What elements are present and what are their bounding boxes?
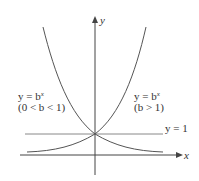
y-axis-label: y bbox=[100, 14, 105, 26]
exponent: x bbox=[41, 90, 44, 98]
exponential-graph: y x y = 1 y = bx (0 < b < 1) y = bx (b >… bbox=[0, 0, 199, 181]
x-axis-label: x bbox=[184, 149, 189, 161]
increasing-curve-condition: (b > 1) bbox=[134, 101, 164, 113]
decreasing-curve-condition: (0 < b < 1) bbox=[18, 101, 65, 113]
decreasing-curve-equation: y = bx bbox=[18, 88, 44, 102]
increasing-curve-equation: y = bx bbox=[134, 88, 160, 102]
y-axis-arrow-icon bbox=[92, 16, 98, 23]
exponent: x bbox=[157, 90, 160, 98]
horizontal-line-label: y = 1 bbox=[165, 122, 188, 134]
x-axis-arrow-icon bbox=[176, 152, 183, 158]
increasing-curve bbox=[27, 27, 146, 152]
